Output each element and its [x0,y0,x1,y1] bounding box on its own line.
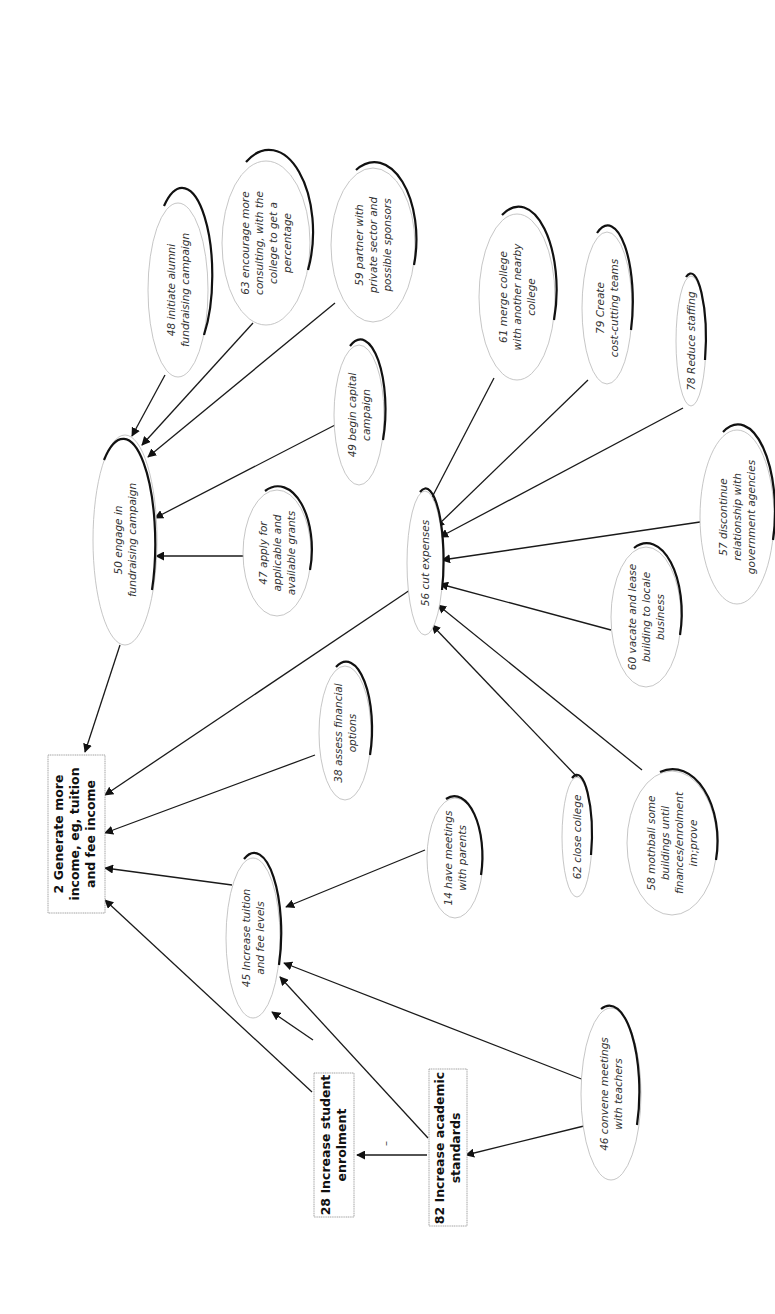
option-47-line-2: applicable and [271,514,283,591]
option-48-line-1: 48 initiate alumni [165,244,177,336]
link-60-to-56 [440,584,611,630]
option-78-line-1: 78 Reduce staffing [685,291,697,391]
option-63-line-2: consulting, with the [253,191,265,295]
option-50-fundraising[interactable]: 50 engage in fundraising campaign [93,435,157,645]
option-58-line-1: 58 mothball some [645,796,657,891]
goal-82-line-2: standards [448,1113,463,1184]
option-47-line-3: available grants [285,510,297,595]
option-57-line-3: government agencies [745,459,757,574]
option-60-line-1: 60 vacate and lease [626,564,638,670]
option-59-partner[interactable]: 59 partner with private sector and possi… [331,162,416,322]
option-14-meetings-parents[interactable]: 14 have meetings with parents [427,796,483,918]
option-61-merge-college[interactable]: 61 merge college with another nearby col… [479,207,557,380]
option-56-cut-expenses[interactable]: 56 cut expenses [407,488,444,635]
option-62-close-college[interactable]: 62 close college [562,775,592,897]
option-58-line-4: im;prove [687,820,699,867]
option-49-line-2: campaign [360,389,372,441]
option-58-mothball-buildings[interactable]: 58 mothball some buildings until finance… [627,769,718,915]
option-45-line-2: and fee levels [254,901,266,975]
link-79-to-56 [436,380,588,527]
goal-2-line-2: income, eg, tuition [67,767,82,900]
option-79-line-1: 79 Create [594,282,606,334]
option-45-increase-tuition[interactable]: 45 Increase tuition and fee levels [226,853,281,1018]
goal-2-line-3: and fee income [83,780,98,888]
link-46-to-82 [466,1126,584,1155]
option-57-discontinue-relationship[interactable]: 57 discontinue relationship with governm… [700,424,775,604]
goal-82-increase-standards[interactable]: 82 Increase academic standards [429,1069,467,1226]
option-63-consulting[interactable]: 63 encourage more consulting, with the c… [222,150,313,325]
option-49-line-1: 49 begin capital [346,373,358,458]
option-46-line-2: with teachers [612,1058,624,1130]
option-62-line-1: 62 close college [571,795,583,880]
link-45-to-2 [105,868,232,885]
option-57-line-2: relationship with [731,473,743,561]
option-60-line-2: building to locale [640,572,652,662]
option-48-line-2: fundraising campaign [179,233,191,347]
link-14-to-45 [286,850,425,907]
option-61-line-3: college [525,278,537,316]
option-46-meetings-teachers[interactable]: 46 convene meetings with teachers [581,1006,641,1180]
option-50-line-1: 50 engage in [112,506,124,575]
option-48-alumni[interactable]: 48 initiate alumni fundraising campaign [148,188,212,377]
option-46-line-1: 46 convene meetings [598,1037,610,1151]
option-63-line-1: 63 encourage more [239,191,251,294]
option-45-line-1: 45 Increase tuition [240,889,252,988]
goal-28-line-1: 28 Increase student [318,1075,333,1216]
option-59-line-3: possible sponsors [381,198,393,293]
option-61-line-2: with another nearby [511,243,523,351]
option-14-line-1: 14 have meetings [442,810,454,905]
goal-2-generate-income[interactable]: 2 Generate more income, eg, tuition and … [48,755,105,913]
option-79-line-2: cost-cutting teams [608,258,620,357]
link-49-to-50 [155,424,337,518]
option-58-line-2: buildings until [659,806,671,880]
option-78-reduce-staffing[interactable]: 78 Reduce staffing [676,274,706,406]
option-47-grants[interactable]: 47 apply for applicable and available gr… [243,486,312,616]
option-49-capital-campaign[interactable]: 49 begin capital campaign [334,340,385,485]
option-61-line-1: 61 merge college [497,251,509,343]
goal-2-line-1: 2 Generate more [51,775,66,894]
option-63-line-3: college to get a [267,202,279,284]
option-79-cost-cutting-teams[interactable]: 79 Create cost-cutting teams [582,226,633,384]
link-50-to-2 [85,645,120,752]
option-60-vacate-lease[interactable]: 60 vacate and lease building to locale b… [611,543,682,687]
link-38-to-2 [105,755,315,833]
link-48-to-50 [132,375,165,436]
option-38-assess-financial[interactable]: 38 assess financial options [319,662,372,800]
option-59-line-1: 59 partner with [353,204,365,285]
link-61-to-56 [428,378,494,505]
option-38-line-2: options [346,713,358,752]
goal-28-increase-enrolment[interactable]: 28 Increase student enrolment [314,1073,354,1217]
option-14-line-2: with parents [456,825,468,891]
link-46-to-45 [284,963,584,1080]
option-60-line-3: business [654,594,666,640]
negative-sign: – [380,1141,391,1146]
link-28-to-45 [272,1012,313,1040]
option-56-line-1: 56 cut expenses [419,519,431,606]
option-38-line-1: 38 assess financial [332,683,344,782]
link-78-to-56 [440,408,683,537]
goal-82-line-1: 82 Increase academic [432,1072,447,1224]
option-57-line-1: 57 discontinue [717,478,729,555]
goal-28-line-2: enrolment [334,1109,349,1182]
option-59-line-2: private sector and [367,197,379,294]
option-58-line-3: finances/enrolment [673,791,685,894]
option-50-line-2: fundraising campaign [126,483,138,597]
option-47-line-1: 47 apply for [257,521,269,585]
option-63-line-4: percentage [281,213,293,274]
cognitive-map: – 2 Generate more income, eg, tuition an… [0,0,775,1314]
